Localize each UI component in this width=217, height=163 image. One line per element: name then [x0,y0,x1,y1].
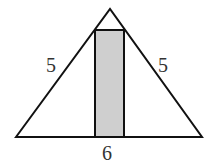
shaded-rectangle [95,30,124,137]
diagram: 5 5 6 [0,0,217,163]
triangle-figure: 5 5 6 [0,0,217,163]
right-side-label: 5 [158,54,168,76]
base-label: 6 [102,142,112,163]
left-side-label: 5 [46,54,56,76]
